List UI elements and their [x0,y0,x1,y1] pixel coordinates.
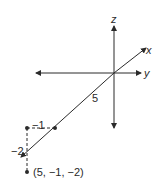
distance-label: 5 [92,92,98,104]
z-axis-label: z [110,13,117,25]
x-axis-point [53,126,57,130]
point-label: (5, −1, −2) [33,166,84,178]
diagram-svg: z x y 5 −1 −2 (5, −1, −2) [0,0,162,188]
z-offset-label: −2 [11,145,24,157]
y-axis-label: y [143,67,151,79]
coordinate-diagram: z x y 5 −1 −2 (5, −1, −2) [0,0,162,188]
target-point [25,170,29,174]
x-axis [21,48,146,157]
x-axis-label: x [145,44,152,56]
y-offset-label: −1 [32,119,45,131]
xy-point [25,126,29,130]
